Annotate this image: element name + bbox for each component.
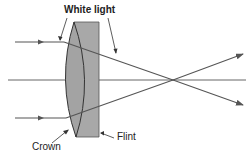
ray-top-arrowhead-icon xyxy=(38,40,44,45)
flint-leader-arrowhead-icon xyxy=(100,131,104,136)
flint-label: Flint xyxy=(117,132,136,142)
white-light-leader-right-arrowhead-icon xyxy=(114,49,118,55)
crown-label: Crown xyxy=(32,142,61,152)
white-light-leader-right xyxy=(108,18,116,53)
ray-bottom-arrowhead-icon xyxy=(38,116,44,121)
white-light-label: White light xyxy=(64,5,115,15)
white-light-leader-left-arrowhead-icon xyxy=(58,36,63,41)
